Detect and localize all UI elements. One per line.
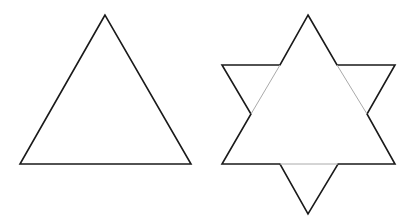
- hexagram-inner-lines: [251, 65, 367, 164]
- inner-line: [251, 65, 280, 114]
- inner-line: [337, 65, 367, 114]
- figure-canvas: [0, 0, 420, 221]
- hexagram-star-outline: [222, 15, 395, 214]
- equilateral-triangle: [20, 15, 191, 164]
